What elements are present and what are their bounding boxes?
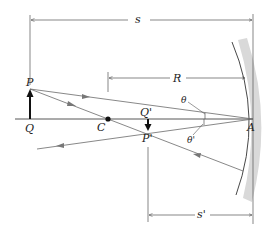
- ray-p-through-c: [30, 89, 243, 171]
- theta-label: θ: [181, 95, 187, 105]
- label-c: C: [97, 121, 106, 134]
- theta-prime-leader: [193, 124, 203, 135]
- ray-arrow-2: [67, 101, 76, 106]
- label-p-prime: P': [141, 132, 152, 145]
- ray-arrow-1: [82, 94, 90, 99]
- ray-arrow-3: [56, 143, 64, 148]
- theta-prime-label: θ': [187, 135, 195, 145]
- label-a: A: [246, 121, 255, 134]
- s-prime-label: s': [197, 208, 206, 221]
- label-p: P: [25, 76, 34, 89]
- center-of-curvature-dot: [105, 116, 110, 121]
- label-q: Q: [25, 122, 34, 135]
- label-q-prime: Q': [140, 106, 152, 119]
- image-arrowhead: [145, 124, 152, 131]
- theta-leader: [188, 102, 205, 114]
- s-label: s: [135, 13, 141, 26]
- ray-arrow-4: [193, 153, 201, 158]
- mirror-diagram: s R θ θ' P Q C Q' P' A s': [0, 0, 269, 235]
- r-label: R: [172, 72, 181, 85]
